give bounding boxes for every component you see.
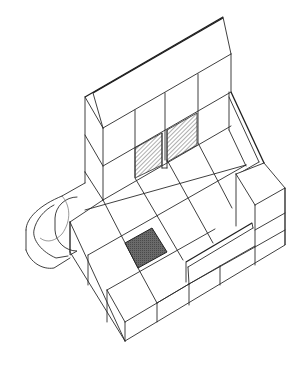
roof <box>85 17 231 128</box>
door-mullion <box>162 130 167 168</box>
dark-floor-tile <box>125 228 167 268</box>
right-raised-block <box>189 163 285 284</box>
semicircle-block <box>26 172 85 268</box>
drawing-svg <box>0 0 302 370</box>
courtyard-right-wall <box>229 92 264 175</box>
axonometric-drawing <box>0 0 302 370</box>
